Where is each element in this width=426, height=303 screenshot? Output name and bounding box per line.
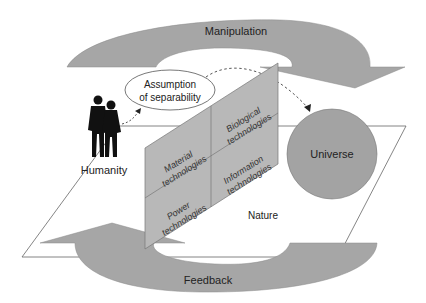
humanity-label: Humanity	[81, 164, 128, 176]
assumption-line1: Assumption	[144, 79, 196, 90]
assumption-ellipse	[125, 70, 215, 110]
manipulation-label: Manipulation	[205, 25, 267, 37]
diagram-canvas: Manipulation Feedback Universe Nature As…	[0, 0, 426, 303]
assumption-line2: of separability	[139, 92, 201, 103]
dashed-arrow-to-assumption	[122, 112, 138, 124]
arrowhead-assumption-icon	[135, 108, 141, 114]
universe-label: Universe	[310, 148, 353, 160]
feedback-label: Feedback	[184, 274, 233, 286]
nature-label: Nature	[248, 210, 278, 221]
